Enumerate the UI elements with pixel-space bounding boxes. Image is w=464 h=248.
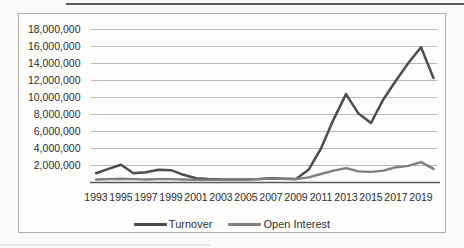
- open-interest-line-swatch: [228, 223, 261, 226]
- legend: Turnover Open Interest: [18, 216, 446, 232]
- legend-item-turnover: Turnover: [134, 218, 213, 230]
- legend-label-open-interest: Open Interest: [263, 218, 330, 230]
- svg-text:2017: 2017: [384, 191, 408, 203]
- svg-text:1999: 1999: [159, 191, 183, 203]
- line-chart-plot: 18,000,00016,000,00014,000,00012,000,000…: [0, 0, 464, 248]
- svg-text:2,000,000: 2,000,000: [34, 159, 81, 171]
- svg-text:2019: 2019: [409, 191, 433, 203]
- scan-artifact-smudge: [0, 244, 210, 246]
- svg-text:2001: 2001: [184, 191, 208, 203]
- svg-text:2007: 2007: [259, 191, 283, 203]
- turnover-line-swatch: [134, 223, 167, 226]
- svg-text:1997: 1997: [134, 191, 158, 203]
- svg-text:18,000,000: 18,000,000: [28, 23, 81, 35]
- svg-text:12,000,000: 12,000,000: [28, 74, 81, 86]
- svg-text:4,000,000: 4,000,000: [34, 142, 81, 154]
- scanned-line-chart-figure: 18,000,00016,000,00014,000,00012,000,000…: [0, 0, 464, 248]
- svg-text:2013: 2013: [334, 191, 358, 203]
- svg-text:2015: 2015: [359, 191, 383, 203]
- svg-text:1995: 1995: [109, 191, 133, 203]
- svg-text:6,000,000: 6,000,000: [34, 125, 81, 137]
- svg-text:14,000,000: 14,000,000: [28, 57, 81, 69]
- svg-text:2011: 2011: [310, 191, 333, 203]
- legend-item-open-interest: Open Interest: [228, 218, 330, 230]
- svg-text:2005: 2005: [234, 191, 258, 203]
- svg-text:1993: 1993: [84, 191, 108, 203]
- svg-text:8,000,000: 8,000,000: [34, 108, 81, 120]
- svg-text:10,000,000: 10,000,000: [28, 91, 81, 103]
- svg-text:16,000,000: 16,000,000: [28, 40, 81, 52]
- svg-text:2009: 2009: [284, 191, 308, 203]
- svg-text:2003: 2003: [209, 191, 233, 203]
- legend-label-turnover: Turnover: [169, 218, 213, 230]
